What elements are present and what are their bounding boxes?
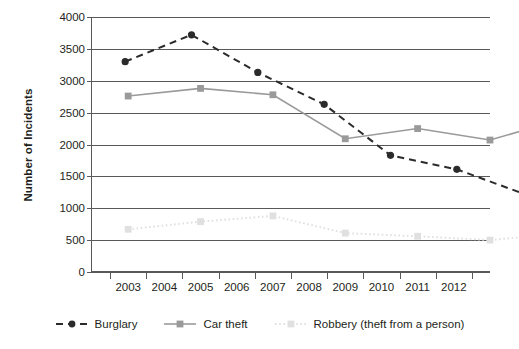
legend-marker-icon	[274, 318, 308, 330]
x-tick-mark	[436, 272, 437, 279]
data-point	[487, 137, 494, 144]
y-tick-label: 3500	[59, 43, 85, 55]
series-burglary	[122, 31, 519, 197]
x-tick-label: 2012	[441, 281, 467, 293]
x-tick-mark	[146, 272, 147, 279]
data-point	[342, 230, 349, 237]
series-robbery-theft-from-a-person	[125, 213, 519, 244]
data-point	[342, 135, 349, 142]
data-point	[414, 125, 421, 132]
series-car-theft	[125, 85, 519, 143]
data-point	[270, 213, 277, 220]
data-point	[487, 237, 494, 244]
legend-marker-icon	[55, 318, 89, 330]
y-tick-label: 0	[79, 266, 85, 278]
y-tick-mark	[87, 272, 92, 273]
chart-legend: BurglaryCar theftRobbery (theft from a p…	[0, 318, 519, 330]
data-point	[125, 226, 132, 233]
x-tick-label: 2004	[152, 281, 178, 293]
y-tick-label: 1000	[59, 202, 85, 214]
y-tick-label: 2000	[59, 139, 85, 151]
x-tick-mark	[110, 272, 111, 279]
legend-item-robbery-theft-from-a-person[interactable]: Robbery (theft from a person)	[274, 318, 465, 330]
x-tick-label: 2003	[115, 281, 141, 293]
legend-item-burglary[interactable]: Burglary	[55, 318, 138, 330]
x-tick-mark	[400, 272, 401, 279]
x-tick-mark	[219, 272, 220, 279]
crime-incidents-line-chart: Number of Incidents 05001000150020002500…	[0, 0, 519, 349]
x-tick-label: 2008	[296, 281, 322, 293]
data-point	[197, 218, 204, 225]
y-axis-title: Number of Incidents	[22, 55, 34, 235]
legend-item-car-theft[interactable]: Car theft	[163, 318, 247, 330]
y-tick-label: 3000	[59, 75, 85, 87]
x-tick-mark	[182, 272, 183, 279]
x-tick-label: 2011	[405, 281, 430, 293]
x-tick-label: 2007	[260, 281, 286, 293]
plot-area: 05001000150020002500300035004000 2003200…	[92, 17, 490, 272]
x-tick-label: 2006	[224, 281, 250, 293]
legend-label: Car theft	[203, 318, 247, 330]
legend-label: Burglary	[95, 318, 138, 330]
data-point	[125, 93, 132, 100]
series-line	[128, 88, 519, 140]
x-tick-label: 2010	[369, 281, 395, 293]
series-line	[128, 216, 519, 240]
data-point	[414, 233, 421, 240]
data-point	[387, 152, 394, 159]
legend-marker-icon	[163, 318, 197, 330]
x-tick-label: 2009	[332, 281, 358, 293]
y-tick-label: 2500	[59, 107, 85, 119]
data-point	[270, 91, 277, 98]
y-tick-label: 500	[66, 234, 85, 246]
x-tick-mark	[327, 272, 328, 279]
x-tick-label: 2005	[188, 281, 214, 293]
data-point	[321, 101, 328, 108]
data-point	[122, 58, 129, 65]
x-tick-mark	[291, 272, 292, 279]
series-plot	[92, 17, 490, 272]
y-tick-label: 1500	[59, 170, 85, 182]
x-tick-mark	[472, 272, 473, 279]
legend-label: Robbery (theft from a person)	[314, 318, 465, 330]
data-point	[453, 166, 460, 173]
x-tick-mark	[255, 272, 256, 279]
data-point	[197, 85, 204, 92]
data-point	[254, 69, 261, 76]
data-point	[188, 31, 195, 38]
x-tick-mark	[363, 272, 364, 279]
y-tick-label: 4000	[59, 11, 85, 23]
